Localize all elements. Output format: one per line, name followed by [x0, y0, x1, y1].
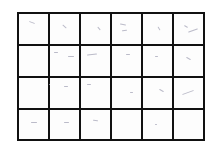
grid-cell-r2-c1: [19, 46, 48, 76]
grid-cell-r1-c5: [143, 14, 172, 44]
grid-cell-r3-c1: [19, 78, 48, 108]
pencil-mark: [122, 30, 127, 32]
grid-cell-r2-c3: [81, 46, 110, 76]
pencil-mark: [188, 28, 198, 32]
grid-cell-r4-c5: [143, 110, 172, 139]
pencil-mark: [64, 122, 69, 123]
grid-cell-r3-c3: [81, 78, 110, 108]
pencil-mark: [159, 89, 164, 92]
pencil-mark: [68, 56, 74, 57]
grid-cell-r2-c6: [174, 46, 203, 76]
pencil-mark: [126, 54, 130, 55]
grid-cell-r1-c1: [19, 14, 48, 44]
pencil-mark: [155, 124, 157, 125]
grid-cell-r3-c5: [143, 78, 172, 108]
grid-table: [17, 12, 205, 141]
pencil-mark: [186, 57, 191, 60]
pencil-mark: [87, 84, 91, 85]
grid-cell-r1-c4: [112, 14, 141, 44]
pencil-mark: [130, 92, 133, 93]
pencil-mark: [31, 122, 37, 123]
grid-cell-r4-c4: [112, 110, 141, 139]
pencil-mark: [54, 52, 58, 53]
grid-cell-r2-c5: [143, 46, 172, 76]
pencil-mark: [155, 56, 158, 57]
pencil-mark: [64, 86, 68, 87]
grid-cell-r4-c2: [50, 110, 79, 139]
grid-cell-r4-c6: [174, 110, 203, 139]
pencil-mark: [158, 27, 161, 31]
pencil-mark: [62, 25, 66, 29]
pencil-mark: [29, 21, 35, 24]
grid-cell-r1-c2: [50, 14, 79, 44]
grid-cell-r1-c3: [81, 14, 110, 44]
grid-cell-r3-c2: [50, 78, 79, 108]
grid-cell-r2-c4: [112, 46, 141, 76]
grid-cell-r4-c1: [19, 110, 48, 139]
grid-cell-r3-c6: [174, 78, 203, 108]
grid-cell-r4-c3: [81, 110, 110, 139]
grid-cell-r2-c2: [50, 46, 79, 76]
grid-cell-r1-c6: [174, 14, 203, 44]
pencil-mark: [97, 27, 100, 31]
pencil-mark: [184, 25, 188, 28]
pencil-mark: [93, 120, 98, 122]
pencil-mark: [182, 90, 194, 95]
pencil-mark: [87, 54, 97, 56]
pencil-mark: [120, 23, 126, 25]
grid-cell-r3-c4: [112, 78, 141, 108]
